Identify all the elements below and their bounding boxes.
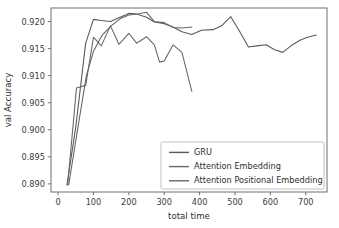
x-tick-label: 0 bbox=[55, 197, 60, 207]
x-axis-ticks: 0100200300400500600700 bbox=[55, 192, 313, 207]
y-axis-ticks: 0.8900.8950.9000.9050.9100.9150.920 bbox=[22, 17, 51, 189]
y-tick-label: 0.890 bbox=[22, 179, 45, 189]
x-tick-label: 100 bbox=[86, 197, 102, 207]
x-axis-title: total time bbox=[168, 211, 210, 221]
line-chart-canvas: 0.8900.8950.9000.9050.9100.9150.920 0100… bbox=[0, 0, 339, 228]
y-tick-label: 0.895 bbox=[22, 152, 45, 162]
x-tick-label: 400 bbox=[192, 197, 208, 207]
x-tick-label: 700 bbox=[298, 197, 314, 207]
y-tick-label: 0.910 bbox=[22, 71, 45, 81]
y-tick-label: 0.915 bbox=[22, 44, 45, 54]
legend-label-2: Attention Positional Embedding bbox=[194, 175, 323, 185]
x-tick-label: 500 bbox=[227, 197, 243, 207]
chart-legend: GRUAttention EmbeddingAttention Position… bbox=[161, 142, 324, 189]
chart-figure: 0.8900.8950.9000.9050.9100.9150.920 0100… bbox=[0, 0, 339, 228]
y-axis-title: val Accuracy bbox=[3, 73, 13, 128]
y-tick-label: 0.900 bbox=[22, 125, 45, 135]
x-tick-label: 200 bbox=[121, 197, 137, 207]
x-tick-label: 600 bbox=[263, 197, 279, 207]
legend-label-0: GRU bbox=[194, 147, 212, 157]
x-tick-label: 300 bbox=[156, 197, 172, 207]
legend-label-1: Attention Embedding bbox=[194, 161, 281, 171]
y-tick-label: 0.920 bbox=[22, 17, 45, 27]
y-tick-label: 0.905 bbox=[22, 98, 45, 108]
